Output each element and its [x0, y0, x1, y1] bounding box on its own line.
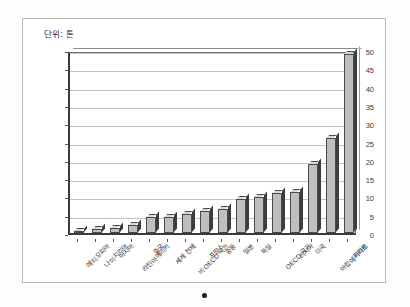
y-tick-mark [65, 162, 68, 163]
x-tick-mark [329, 239, 330, 242]
bar [326, 138, 335, 233]
y-tick-mark [65, 70, 68, 71]
y-tick-mark [65, 235, 68, 236]
x-tick-mark [95, 239, 96, 242]
bar-series [70, 53, 355, 233]
y-tick-mark [65, 198, 68, 199]
unit-caption: 단위: 톤 [44, 27, 74, 39]
bar-slot [146, 50, 155, 233]
x-tick-mark [149, 239, 150, 242]
bar [182, 214, 191, 233]
x-tick-mark [131, 239, 132, 242]
x-tick-mark [239, 239, 240, 242]
y-tick-label: 0 [344, 231, 374, 240]
y-tick-mark [65, 125, 68, 126]
y-tick-label: 40 [344, 84, 374, 93]
x-tick-mark [113, 239, 114, 242]
x-tick-mark [347, 239, 348, 242]
bar-slot [326, 50, 335, 233]
bar-slot [308, 50, 317, 233]
bar [218, 209, 227, 233]
x-tick-mark [311, 239, 312, 242]
bar [236, 199, 245, 233]
bar-slot [200, 50, 209, 233]
x-tick-mark [203, 239, 204, 242]
bar [308, 164, 317, 233]
y-tick-label: 10 [344, 194, 374, 203]
bar-slot [236, 50, 245, 233]
bar [200, 211, 209, 233]
bar [92, 229, 101, 233]
bar-chart: 05101520253035404550 에티오피아나이지리아아시아라틴아메리카… [36, 48, 374, 244]
x-tick-mark [167, 239, 168, 242]
y-tick-mark [65, 144, 68, 145]
bar-slot [128, 50, 137, 233]
bar [254, 197, 263, 233]
bar [110, 228, 119, 233]
x-tick-mark [275, 239, 276, 242]
bar-slot [290, 50, 299, 233]
bar-slot [164, 50, 173, 233]
bar-slot [92, 50, 101, 233]
y-tick-label: 25 [344, 139, 374, 148]
y-tick-label: 30 [344, 121, 374, 130]
bullet-dot-marker [202, 293, 207, 298]
bar-slot [182, 50, 191, 233]
bar [74, 231, 83, 233]
x-tick-mark [257, 239, 258, 242]
y-tick-mark [65, 89, 68, 90]
bar [272, 193, 281, 233]
plot-area [68, 52, 356, 235]
x-tick-mark [77, 239, 78, 242]
y-tick-label: 35 [344, 102, 374, 111]
bar [128, 225, 137, 233]
bar-slot [218, 50, 227, 233]
bar [290, 192, 299, 233]
y-tick-label: 5 [344, 212, 374, 221]
bar-slot [254, 50, 263, 233]
bar-slot [110, 50, 119, 233]
chart-page: 단위: 톤 05101520253035404550 에티오피아나이지리아아시아… [0, 0, 410, 307]
y-tick-label: 45 [344, 66, 374, 75]
y-tick-label: 15 [344, 176, 374, 185]
y-tick-label: 20 [344, 157, 374, 166]
x-tick-mark [293, 239, 294, 242]
y-tick-mark [65, 180, 68, 181]
bar-slot [272, 50, 281, 233]
y-tick-label: 50 [344, 48, 374, 57]
y-tick-mark [65, 52, 68, 53]
y-tick-mark [65, 107, 68, 108]
bar-slot [74, 50, 83, 233]
x-tick-mark [185, 239, 186, 242]
x-tick-mark [221, 239, 222, 242]
bar [164, 217, 173, 233]
bar [146, 217, 155, 233]
y-tick-mark [65, 217, 68, 218]
